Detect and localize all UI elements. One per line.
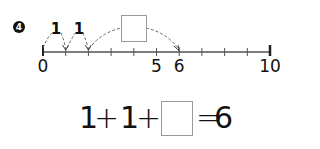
jump-arrow-2-6-start: [89, 28, 121, 49]
equation-plus-1: +: [94, 103, 119, 133]
tick-label-10: 10: [259, 58, 281, 75]
number-line-answer-box[interactable]: [121, 15, 147, 42]
jump-label-1: 1: [51, 22, 61, 37]
tick-label-5: 5: [151, 58, 162, 75]
equation-plus-2: +: [136, 103, 161, 133]
arrow-heads: [63, 45, 180, 51]
tick-label-0: 0: [38, 58, 49, 75]
tick-label-6: 6: [174, 58, 185, 75]
equation-result: 6: [214, 103, 233, 133]
equation-answer-box[interactable]: [161, 101, 193, 136]
jump-label-2: 1: [74, 22, 84, 37]
